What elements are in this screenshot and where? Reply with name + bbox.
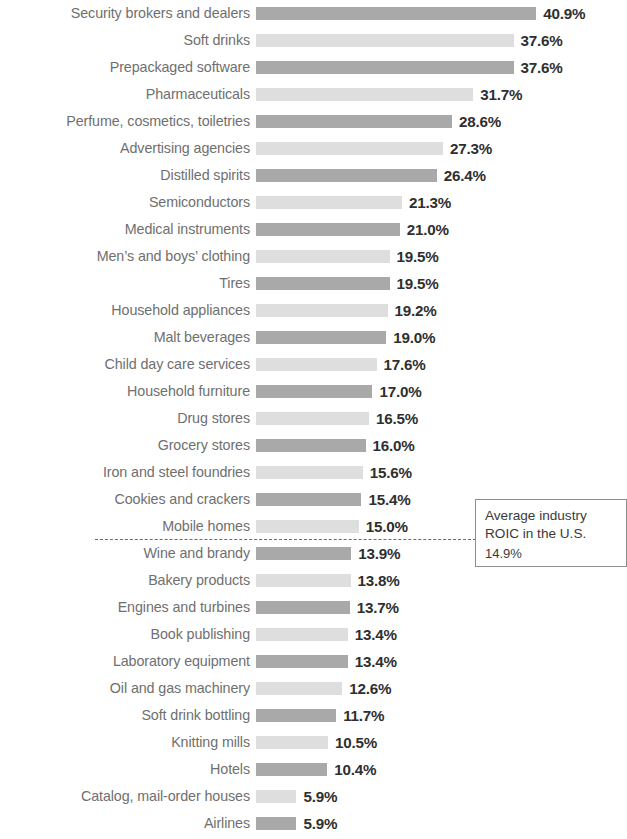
value-bar bbox=[256, 196, 402, 209]
chart-row: Household appliances19.2% bbox=[0, 297, 618, 324]
category-label: Grocery stores bbox=[0, 438, 256, 452]
value-label: 13.8% bbox=[351, 573, 400, 588]
value-label: 15.6% bbox=[363, 465, 412, 480]
chart-row: Catalog, mail-order houses5.9% bbox=[0, 783, 618, 810]
bar-track: 28.6% bbox=[256, 108, 618, 135]
average-reference-line bbox=[95, 539, 476, 540]
bar-track: 13.4% bbox=[256, 648, 618, 675]
bar-track: 21.3% bbox=[256, 189, 618, 216]
category-label: Iron and steel foundries bbox=[0, 465, 256, 479]
bar-track: 5.9% bbox=[256, 783, 618, 810]
value-bar bbox=[256, 88, 473, 101]
bar-track: 21.0% bbox=[256, 216, 618, 243]
value-label: 16.5% bbox=[369, 411, 418, 426]
chart-row: Soft drinks37.6% bbox=[0, 27, 618, 54]
chart-row: Iron and steel foundries15.6% bbox=[0, 459, 618, 486]
chart-row: Book publishing13.4% bbox=[0, 621, 618, 648]
value-bar bbox=[256, 493, 361, 506]
category-label: Catalog, mail-order houses bbox=[0, 789, 256, 803]
category-label: Tires bbox=[0, 276, 256, 290]
value-bar bbox=[256, 439, 366, 452]
category-label: Engines and turbines bbox=[0, 600, 256, 614]
chart-row: Advertising agencies27.3% bbox=[0, 135, 618, 162]
chart-row: Malt beverages19.0% bbox=[0, 324, 618, 351]
value-label: 27.3% bbox=[443, 141, 492, 156]
callout-line-2: ROIC in the U.S. bbox=[485, 525, 626, 543]
value-label: 37.6% bbox=[514, 60, 563, 75]
callout-value: 14.9% bbox=[485, 545, 626, 562]
chart-row: Prepackaged software37.6% bbox=[0, 54, 618, 81]
value-bar bbox=[256, 7, 536, 20]
chart-row: Drug stores16.5% bbox=[0, 405, 618, 432]
value-label: 10.5% bbox=[328, 735, 377, 750]
category-label: Distilled spirits bbox=[0, 168, 256, 182]
bar-track: 19.5% bbox=[256, 243, 618, 270]
bar-track: 5.9% bbox=[256, 810, 618, 837]
category-label: Soft drinks bbox=[0, 33, 256, 47]
value-bar bbox=[256, 655, 348, 668]
value-label: 17.0% bbox=[372, 384, 421, 399]
value-bar bbox=[256, 331, 386, 344]
value-label: 15.0% bbox=[359, 519, 408, 534]
chart-row: Engines and turbines13.7% bbox=[0, 594, 618, 621]
value-bar bbox=[256, 736, 328, 749]
chart-row: Bakery products13.8% bbox=[0, 567, 618, 594]
value-bar bbox=[256, 277, 390, 290]
category-label: Malt beverages bbox=[0, 330, 256, 344]
category-label: Airlines bbox=[0, 816, 256, 830]
value-bar bbox=[256, 763, 327, 776]
chart-row: Laboratory equipment13.4% bbox=[0, 648, 618, 675]
value-bar bbox=[256, 358, 377, 371]
value-bar bbox=[256, 628, 348, 641]
value-label: 5.9% bbox=[296, 789, 337, 804]
category-label: Cookies and crackers bbox=[0, 492, 256, 506]
chart-row: Men’s and boys’ clothing19.5% bbox=[0, 243, 618, 270]
category-label: Laboratory equipment bbox=[0, 654, 256, 668]
value-label: 15.4% bbox=[361, 492, 410, 507]
value-bar bbox=[256, 601, 350, 614]
value-bar bbox=[256, 790, 296, 803]
category-label: Drug stores bbox=[0, 411, 256, 425]
value-label: 19.2% bbox=[388, 303, 437, 318]
category-label: Semiconductors bbox=[0, 195, 256, 209]
value-bar bbox=[256, 250, 390, 263]
chart-row: Security brokers and dealers40.9% bbox=[0, 0, 618, 27]
chart-row: Medical instruments21.0% bbox=[0, 216, 618, 243]
category-label: Bakery products bbox=[0, 573, 256, 587]
value-label: 5.9% bbox=[296, 816, 337, 831]
bar-track: 13.7% bbox=[256, 594, 618, 621]
category-label: Mobile homes bbox=[0, 519, 256, 533]
chart-row: Knitting mills10.5% bbox=[0, 729, 618, 756]
bar-track: 12.6% bbox=[256, 675, 618, 702]
value-label: 21.3% bbox=[402, 195, 451, 210]
chart-row: Tires19.5% bbox=[0, 270, 618, 297]
value-label: 10.4% bbox=[327, 762, 376, 777]
category-label: Soft drink bottling bbox=[0, 708, 256, 722]
average-roic-callout: Average industryROIC in the U.S.14.9% bbox=[475, 499, 627, 567]
category-label: Child day care services bbox=[0, 357, 256, 371]
value-bar bbox=[256, 547, 351, 560]
value-bar bbox=[256, 817, 296, 830]
category-label: Oil and gas machinery bbox=[0, 681, 256, 695]
value-bar bbox=[256, 304, 388, 317]
value-bar bbox=[256, 61, 514, 74]
value-label: 26.4% bbox=[437, 168, 486, 183]
chart-row: Pharmaceuticals31.7% bbox=[0, 81, 618, 108]
category-label: Security brokers and dealers bbox=[0, 6, 256, 20]
category-label: Men’s and boys’ clothing bbox=[0, 249, 256, 263]
value-label: 17.6% bbox=[377, 357, 426, 372]
chart-row: Hotels10.4% bbox=[0, 756, 618, 783]
callout-line-1: Average industry bbox=[485, 507, 626, 525]
category-label: Medical instruments bbox=[0, 222, 256, 236]
bar-track: 26.4% bbox=[256, 162, 618, 189]
value-bar bbox=[256, 385, 372, 398]
value-label: 13.7% bbox=[350, 600, 399, 615]
bar-track: 19.5% bbox=[256, 270, 618, 297]
bar-track: 19.2% bbox=[256, 297, 618, 324]
value-label: 19.5% bbox=[390, 276, 439, 291]
value-bar bbox=[256, 34, 514, 47]
category-label: Household appliances bbox=[0, 303, 256, 317]
value-label: 19.0% bbox=[386, 330, 435, 345]
value-label: 19.5% bbox=[390, 249, 439, 264]
